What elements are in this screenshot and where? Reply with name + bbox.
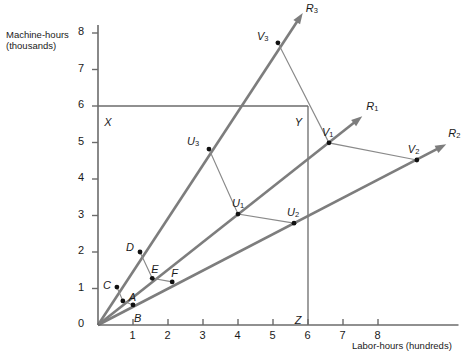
data-point-label-U3: U3: [187, 135, 199, 149]
data-point-marker-F: [170, 280, 175, 285]
data-point-marker-D: [138, 250, 143, 255]
ray-label-R3: R3: [306, 2, 318, 16]
data-point-marker-U1: [236, 212, 241, 217]
x-tick-label-1: 1: [130, 329, 136, 342]
data-point-label-C: C: [103, 279, 111, 292]
x-tick-label-2: 2: [165, 329, 171, 342]
y-tick-label-0: 0: [78, 317, 84, 330]
data-point-label-U1: U1: [232, 197, 244, 211]
data-point-label-V3: V3: [257, 30, 269, 44]
chart-background: [0, 0, 468, 355]
y-tick-label-8: 8: [78, 25, 84, 38]
x-tick-label-7: 7: [340, 329, 346, 342]
data-point-marker-E: [150, 276, 155, 281]
data-point-marker-V2: [414, 158, 419, 163]
data-point-marker-C: [115, 285, 120, 290]
data-point-marker-U2: [292, 221, 297, 226]
y-axis-title-line2: (thousands): [6, 40, 56, 51]
data-point-label-B: B: [134, 312, 141, 325]
ray-label-R1: R1: [366, 100, 378, 114]
y-tick-label-3: 3: [78, 208, 84, 221]
y-tick-label-7: 7: [78, 62, 84, 75]
reference-label-X: X: [104, 116, 111, 129]
ray-label-R2: R2: [448, 127, 460, 141]
data-point-label-E: E: [151, 263, 158, 276]
y-tick-label-1: 1: [78, 281, 84, 294]
data-point-label-V1: V1: [322, 126, 334, 140]
x-axis-title: Labor-hours (hundreds): [352, 341, 452, 352]
data-point-label-F: F: [171, 267, 178, 280]
y-tick-label-5: 5: [78, 135, 84, 148]
x-tick-label-4: 4: [235, 329, 241, 342]
data-point-label-A: A: [129, 291, 136, 304]
data-point-marker-A: [120, 299, 125, 304]
reference-label-Z: Z: [295, 314, 302, 327]
x-tick-label-3: 3: [200, 329, 206, 342]
data-point-label-D: D: [126, 241, 134, 254]
data-point-marker-V1: [327, 140, 332, 145]
data-point-marker-U3: [207, 147, 212, 152]
y-tick-label-6: 6: [78, 98, 84, 111]
data-point-marker-V3: [276, 40, 281, 45]
y-tick-label-4: 4: [78, 171, 84, 184]
x-tick-label-5: 5: [270, 329, 276, 342]
y-axis-title: Machine-hours (thousands): [6, 30, 69, 52]
x-tick-label-6: 6: [305, 329, 311, 342]
data-point-label-U2: U2: [287, 206, 299, 220]
data-point-label-V2: V2: [408, 143, 420, 157]
reference-label-Y: Y: [295, 116, 302, 129]
y-axis-title-line1: Machine-hours: [6, 29, 69, 40]
chart-canvas: [0, 0, 468, 355]
y-tick-label-2: 2: [78, 244, 84, 257]
